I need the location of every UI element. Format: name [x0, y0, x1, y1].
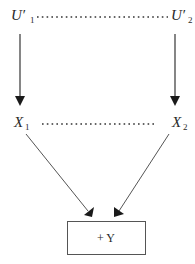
- node-u2-label: U′: [171, 7, 186, 23]
- node-u2: U′ 2: [171, 7, 193, 25]
- arrowhead-icon: [114, 207, 124, 217]
- node-u2-subscript: 2: [188, 15, 193, 25]
- causal-diagram: U′ 1 U′ 2 X 1 X 2 + Y: [0, 0, 195, 264]
- node-x1-label: X: [13, 114, 24, 130]
- node-u1-label: U′: [11, 7, 26, 23]
- edge-x1-y: [26, 134, 88, 211]
- arrowhead-icon: [15, 96, 25, 106]
- arrowhead-icon: [170, 96, 180, 106]
- node-y: + Y: [68, 222, 146, 255]
- node-y-label: + Y: [97, 231, 115, 245]
- node-x1-subscript: 1: [25, 122, 30, 132]
- node-u1: U′ 1: [11, 7, 35, 25]
- edge-x2-y: [119, 134, 169, 211]
- node-x2-label: X: [171, 114, 182, 130]
- node-x1: X 1: [13, 114, 30, 132]
- node-x2: X 2: [171, 114, 188, 132]
- node-u1-subscript: 1: [30, 15, 35, 25]
- node-x2-subscript: 2: [183, 122, 188, 132]
